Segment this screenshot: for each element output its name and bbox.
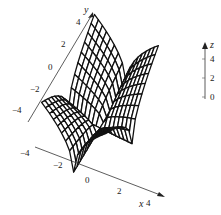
- y-tick-label: −2: [30, 84, 40, 94]
- y-axis-label: y: [83, 4, 89, 15]
- z-tick-label: 0: [210, 92, 215, 102]
- surface-plot: y 4 2 0 −2 −4 x −4 −2 0 2 4 z 4 2 0: [0, 0, 221, 215]
- x-tick-label: 0: [85, 175, 90, 185]
- z-axis-arrow-icon: [202, 42, 208, 49]
- z-axis-label: z: [209, 39, 214, 50]
- z-tick-label: 4: [210, 54, 215, 64]
- y-tick-label: 0: [48, 62, 53, 72]
- y-axis-arrow-icon: [88, 12, 93, 18]
- y-tick-label: 4: [76, 17, 81, 27]
- z-tick-label: 2: [210, 73, 215, 83]
- x-tick-label: 2: [117, 186, 122, 196]
- y-tick-label: −4: [12, 105, 22, 115]
- x-axis-label: x: [138, 198, 144, 209]
- x-tick-label: −2: [53, 160, 63, 170]
- x-axis-arrow-icon: [157, 192, 165, 197]
- x-tick-label: 4: [146, 198, 151, 208]
- x-tick-label: −4: [20, 148, 30, 158]
- z-axis: z 4 2 0: [202, 39, 215, 102]
- x-axis-line: [35, 147, 163, 196]
- x-axis: x −4 −2 0 2 4: [20, 147, 165, 209]
- y-tick-label: 2: [61, 39, 66, 49]
- surface-mesh: [42, 14, 159, 172]
